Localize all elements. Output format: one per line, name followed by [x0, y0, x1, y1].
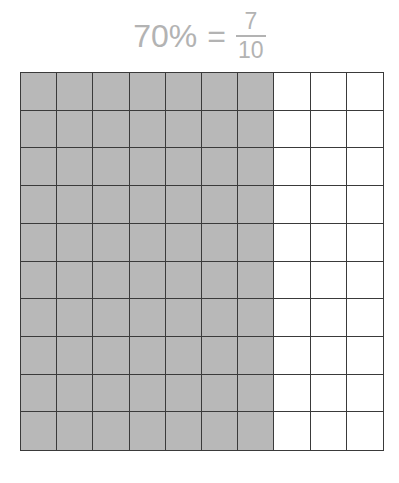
- shaded-cell: [202, 224, 238, 262]
- shaded-cell: [21, 111, 57, 149]
- unshaded-cell: [347, 186, 383, 224]
- shaded-cell: [93, 186, 129, 224]
- shaded-cell: [130, 375, 166, 413]
- shaded-cell: [57, 299, 93, 337]
- shaded-cell: [57, 186, 93, 224]
- shaded-cell: [166, 111, 202, 149]
- shaded-cell: [57, 412, 93, 450]
- shaded-cell: [238, 224, 274, 262]
- shaded-cell: [238, 375, 274, 413]
- shaded-cell: [21, 375, 57, 413]
- unshaded-cell: [311, 111, 347, 149]
- shaded-cell: [166, 412, 202, 450]
- unshaded-cell: [347, 224, 383, 262]
- hundred-grid: [20, 72, 384, 451]
- unshaded-cell: [311, 412, 347, 450]
- equals-sign: =: [207, 18, 226, 55]
- shaded-cell: [238, 148, 274, 186]
- shaded-cell: [21, 262, 57, 300]
- unshaded-cell: [347, 262, 383, 300]
- shaded-cell: [202, 73, 238, 111]
- unshaded-cell: [274, 375, 310, 413]
- shaded-cell: [57, 73, 93, 111]
- unshaded-cell: [274, 111, 310, 149]
- shaded-cell: [130, 73, 166, 111]
- percent-label: 70%: [133, 18, 197, 55]
- shaded-cell: [93, 73, 129, 111]
- unshaded-cell: [311, 224, 347, 262]
- shaded-cell: [202, 299, 238, 337]
- fraction-denominator: 10: [238, 38, 264, 63]
- unshaded-cell: [347, 299, 383, 337]
- unshaded-cell: [311, 375, 347, 413]
- shaded-cell: [93, 337, 129, 375]
- shaded-cell: [57, 224, 93, 262]
- shaded-cell: [166, 73, 202, 111]
- equation-title: 70% = 7 10: [0, 6, 399, 66]
- fraction-numerator: 7: [244, 9, 257, 34]
- shaded-cell: [202, 111, 238, 149]
- shaded-cell: [57, 262, 93, 300]
- unshaded-cell: [347, 375, 383, 413]
- shaded-cell: [93, 111, 129, 149]
- shaded-cell: [21, 224, 57, 262]
- shaded-cell: [21, 148, 57, 186]
- fraction: 7 10: [236, 9, 266, 63]
- shaded-cell: [166, 224, 202, 262]
- shaded-cell: [21, 186, 57, 224]
- unshaded-cell: [311, 299, 347, 337]
- shaded-cell: [93, 262, 129, 300]
- shaded-cell: [130, 337, 166, 375]
- unshaded-cell: [347, 148, 383, 186]
- shaded-cell: [238, 111, 274, 149]
- shaded-cell: [130, 148, 166, 186]
- shaded-cell: [166, 337, 202, 375]
- shaded-cell: [166, 299, 202, 337]
- unshaded-cell: [274, 148, 310, 186]
- unshaded-cell: [311, 148, 347, 186]
- shaded-cell: [130, 111, 166, 149]
- shaded-cell: [238, 186, 274, 224]
- shaded-cell: [238, 73, 274, 111]
- shaded-cell: [93, 412, 129, 450]
- shaded-cell: [238, 337, 274, 375]
- shaded-cell: [130, 224, 166, 262]
- shaded-cell: [21, 412, 57, 450]
- shaded-cell: [202, 412, 238, 450]
- unshaded-cell: [347, 337, 383, 375]
- shaded-cell: [166, 262, 202, 300]
- unshaded-cell: [347, 412, 383, 450]
- shaded-cell: [93, 375, 129, 413]
- shaded-cell: [57, 337, 93, 375]
- shaded-cell: [202, 262, 238, 300]
- shaded-cell: [202, 186, 238, 224]
- shaded-cell: [238, 299, 274, 337]
- shaded-cell: [130, 299, 166, 337]
- shaded-cell: [57, 375, 93, 413]
- unshaded-cell: [311, 73, 347, 111]
- shaded-cell: [21, 73, 57, 111]
- unshaded-cell: [274, 412, 310, 450]
- shaded-cell: [130, 262, 166, 300]
- shaded-cell: [57, 111, 93, 149]
- shaded-cell: [21, 337, 57, 375]
- shaded-cell: [21, 299, 57, 337]
- shaded-cell: [93, 224, 129, 262]
- unshaded-cell: [274, 186, 310, 224]
- unshaded-cell: [274, 224, 310, 262]
- unshaded-cell: [347, 111, 383, 149]
- unshaded-cell: [274, 262, 310, 300]
- unshaded-cell: [274, 337, 310, 375]
- unshaded-cell: [311, 262, 347, 300]
- shaded-cell: [130, 186, 166, 224]
- unshaded-cell: [311, 337, 347, 375]
- shaded-cell: [202, 375, 238, 413]
- shaded-cell: [57, 148, 93, 186]
- shaded-cell: [130, 412, 166, 450]
- unshaded-cell: [274, 73, 310, 111]
- shaded-cell: [238, 262, 274, 300]
- shaded-cell: [202, 337, 238, 375]
- unshaded-cell: [311, 186, 347, 224]
- shaded-cell: [238, 412, 274, 450]
- shaded-cell: [93, 148, 129, 186]
